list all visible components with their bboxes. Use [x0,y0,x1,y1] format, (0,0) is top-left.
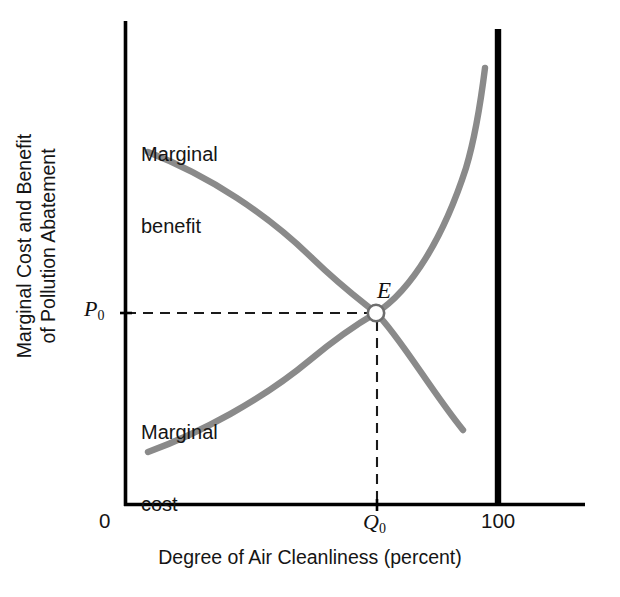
marginal-cost-label-line-2: cost [141,492,218,516]
y-axis-title-line-1: Marginal Cost and Benefit [13,96,37,396]
marginal-cost-label-line-1: Marginal [141,420,218,444]
price-axis-label: P0 [84,296,104,324]
marginal-cost-label: Marginal cost [141,372,218,564]
y-axis-title: Marginal Cost and Benefit of Pollution A… [13,96,73,396]
x-axis-origin-label: 0 [99,509,110,533]
equilibrium-point-label: E [377,277,391,304]
figure-container: Marginal Cost and Benefit of Pollution A… [0,0,620,597]
price-axis-label-symbol: P [84,296,97,321]
marginal-benefit-label: Marginal benefit [141,94,218,286]
x-axis-title: Degree of Air Cleanliness (percent) [0,546,620,569]
quantity-axis-label: Q0 [363,509,386,537]
equilibrium-point-marker [368,305,384,321]
marginal-benefit-label-line-2: benefit [141,214,218,238]
x-axis-max-label: 100 [481,509,515,533]
marginal-benefit-label-line-1: Marginal [141,142,218,166]
price-axis-label-subscript: 0 [97,308,104,323]
y-axis-title-line-2: of Pollution Abatement [37,96,61,396]
quantity-axis-label-subscript: 0 [379,521,386,536]
quantity-axis-label-symbol: Q [363,509,379,534]
